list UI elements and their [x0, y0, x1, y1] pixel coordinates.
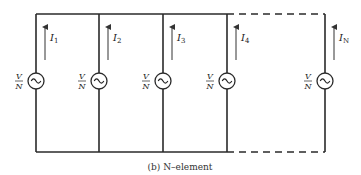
ac-source-icon — [155, 73, 171, 89]
source-voltage-label: VN — [206, 72, 215, 91]
svg-text:N: N — [78, 82, 87, 91]
branch-2: I2VN — [78, 14, 122, 152]
source-voltage-label: VN — [142, 72, 151, 91]
svg-text:N: N — [304, 82, 313, 91]
svg-text:N: N — [142, 82, 151, 91]
svg-text:N: N — [206, 82, 215, 91]
svg-text:V: V — [16, 72, 23, 81]
current-label: I4 — [240, 32, 250, 45]
source-voltage-label: VN — [304, 72, 313, 91]
source-voltage-label: VN — [15, 72, 24, 91]
ac-source-icon — [317, 73, 333, 89]
source-voltage-label: VN — [78, 72, 87, 91]
ac-source-icon — [91, 73, 107, 89]
branch-4: I4VN — [206, 14, 250, 152]
branch-5: INVN — [304, 14, 350, 152]
svg-text:V: V — [143, 72, 150, 81]
figure-caption: (b) N–element — [148, 162, 213, 172]
svg-text:N: N — [15, 82, 24, 91]
svg-text:V: V — [207, 72, 214, 81]
current-label: IN — [338, 32, 349, 45]
branch-1: I1VN — [15, 14, 59, 152]
branch-3: I3VN — [142, 14, 186, 152]
current-label: I1 — [49, 32, 58, 45]
ac-source-icon — [28, 73, 44, 89]
current-label: I2 — [112, 32, 121, 45]
n-element-circuit-diagram: I1VNI2VNI3VNI4VNINVN (b) N–element — [0, 0, 361, 175]
branches: I1VNI2VNI3VNI4VNINVN — [15, 14, 350, 152]
ac-source-icon — [219, 73, 235, 89]
svg-text:V: V — [79, 72, 86, 81]
current-label: I3 — [176, 32, 185, 45]
svg-text:V: V — [305, 72, 312, 81]
